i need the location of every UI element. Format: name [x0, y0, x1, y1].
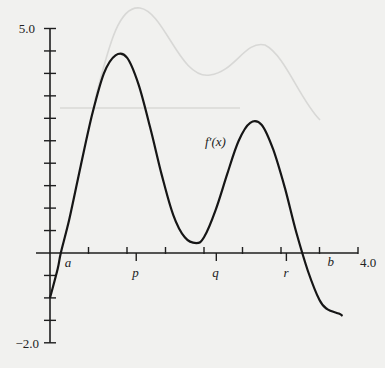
f-prime-curve	[50, 54, 343, 316]
point-label-q: q	[212, 265, 219, 280]
axes	[36, 29, 358, 343]
bleed-through-ghost-curve	[95, 8, 320, 120]
point-label-p: p	[131, 265, 139, 280]
y-max-label: 5.0	[19, 21, 35, 36]
point-label-a: a	[65, 255, 72, 270]
axis-labels: 5.0−2.04.0f′(x)apqrb	[15, 21, 376, 351]
point-label-r: r	[283, 265, 289, 280]
y-min-label: −2.0	[15, 336, 39, 351]
axis-ticks	[44, 29, 358, 343]
curve-label: f′(x)	[205, 134, 226, 149]
x-max-label: 4.0	[360, 255, 376, 270]
derivative-graph: 5.0−2.04.0f′(x)apqrb	[0, 0, 385, 368]
point-label-b: b	[328, 254, 335, 269]
